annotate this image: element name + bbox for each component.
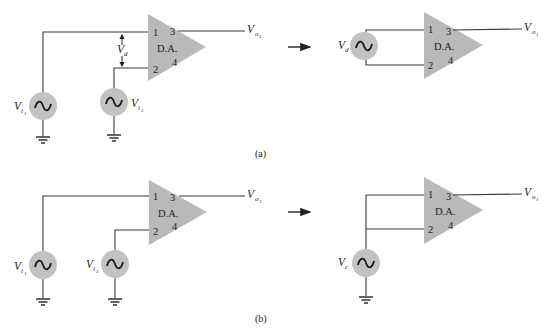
panel-b-right-circuit: 1 3 D.A. 4 2 V o 1 V c [338,177,539,303]
output-wire [453,194,522,195]
pin-3-label: 3 [446,191,451,202]
source-vi1: V i 1 [14,251,57,305]
output-label: V o 1 [247,23,262,39]
amp-label: D.A. [157,43,177,54]
pin-3-label: 3 [170,26,175,37]
input2-wire [366,59,424,65]
pin-4-label: 4 [448,220,454,231]
source-vi2: V i 2 [100,88,144,141]
input1-wire [43,196,149,252]
source-vd: V d [338,32,378,60]
svg-text:1: 1 [536,32,539,37]
pin-2-label: 2 [153,64,158,75]
output-label: V o 1 [524,21,539,37]
svg-text:1: 1 [259,199,262,204]
input2-wire [115,230,149,250]
ground-icon [36,299,50,305]
svg-text:1: 1 [259,34,262,39]
pin-1-label: 1 [153,191,158,202]
pin-2-label: 2 [153,226,158,237]
svg-text:2: 2 [141,108,144,113]
pin-1-label: 1 [428,24,433,35]
svg-text:c: c [345,263,349,271]
svg-text:d: d [345,46,349,54]
amp-label: D.A. [434,41,454,52]
svg-text:d: d [124,50,128,58]
pin-4-label: 4 [172,57,178,68]
input1-wire [366,195,424,249]
source-vi1: V i 1 [14,92,57,143]
input1-wire [43,32,148,92]
pin-3-label: 3 [170,192,175,203]
svg-text:i: i [138,104,140,112]
ground-icon [107,135,121,141]
ground-icon [108,299,122,305]
caption-b: (b) [255,313,267,325]
panel-b-left-circuit: 1 3 D.A. 4 2 V o 1 V i 1 V i 2 [14,180,262,305]
svg-text:1: 1 [536,197,539,202]
output-wire [453,29,522,30]
input2-wire [114,68,148,88]
input1-wire [366,30,424,33]
amp-label: D.A. [435,206,455,217]
svg-text:i: i [21,267,23,275]
pin-1-label: 1 [428,189,433,200]
caption-a: (a) [255,148,266,160]
ground-icon [36,137,50,143]
vd-label: V d [117,43,128,58]
panel-a-right-circuit: 1 3 D.A. 4 2 V o 1 V d [338,12,539,79]
panel-a-left-circuit: 1 3 D.A. 4 2 V o 1 V d V i 1 [14,14,262,143]
pin-3-label: 3 [446,26,451,37]
source-vi2: V i 2 [86,250,129,305]
ground-icon [359,297,373,303]
pin-2-label: 2 [428,60,433,71]
amp-label: D.A. [158,208,178,219]
source-vc: V c [338,249,380,303]
pin-2-label: 2 [428,224,433,235]
svg-text:1: 1 [24,271,27,276]
output-label: V o 1 [524,186,539,202]
pin-1-label: 1 [153,27,158,38]
svg-text:i: i [21,107,23,115]
svg-text:1: 1 [24,111,27,116]
pin-4-label: 4 [172,221,178,232]
svg-text:i: i [93,265,95,273]
pin-4-label: 4 [448,55,454,66]
output-label: V o 1 [247,188,262,204]
svg-text:2: 2 [96,269,99,274]
differential-amplifier-figure: 1 3 D.A. 4 2 V o 1 V d V i 1 [0,0,547,333]
